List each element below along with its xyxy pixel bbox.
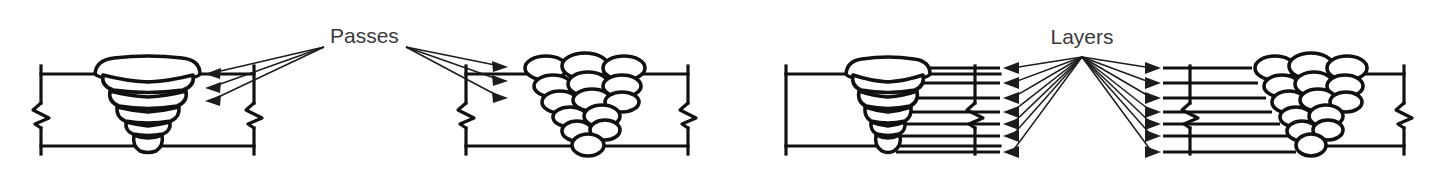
welding-cross-section-figure: Passes Layers <box>0 0 1447 176</box>
welding-diagram-root: Passes Layers <box>0 0 1447 176</box>
callout-label-passes: Passes <box>330 24 399 47</box>
callout-label-layers: Layers <box>1050 25 1113 48</box>
